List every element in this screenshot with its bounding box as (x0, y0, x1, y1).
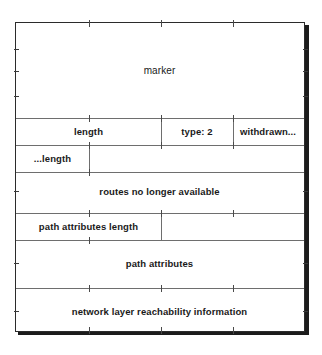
tick-bottom-2 (161, 327, 162, 334)
field-label-path-attributes-length: path attributes length (16, 221, 161, 232)
cell-divider-withdrawnlength-right (89, 145, 90, 172)
row-divider-marker-length (16, 118, 304, 119)
field-label-marker: marker (16, 65, 303, 76)
tick-row6-3 (233, 285, 234, 292)
tick-bottom-3 (233, 327, 234, 334)
bgp-update-packet-diagram: marker length type: 2 withdrawn... ...le… (15, 22, 305, 332)
field-label-path-attributes: path attributes (16, 258, 303, 269)
tick-top-2 (161, 20, 162, 27)
tick-row5-1 (89, 237, 90, 244)
tick-row1-2 (161, 115, 162, 122)
row-divider-length-withdrawnlength (16, 145, 304, 146)
edge-tick-right-5 (303, 263, 308, 264)
tick-row1-3 (233, 115, 234, 122)
row-divider-withdrawnlength-routes (16, 172, 304, 173)
tick-row4-3 (233, 210, 234, 217)
field-label-type: type: 2 (161, 126, 233, 137)
tick-row2-1 (89, 142, 90, 149)
field-label-nlri: network layer reachability information (16, 306, 303, 317)
tick-bottom-1 (89, 327, 90, 334)
tick-row2-3 (233, 142, 234, 149)
tick-row3-1 (89, 169, 90, 176)
edge-tick-left-1 (14, 49, 19, 50)
field-label-routes-withdrawn: routes no longer available (16, 186, 303, 197)
edge-tick-right-4 (303, 191, 308, 192)
tick-row1-1 (89, 115, 90, 122)
tick-top-3 (233, 20, 234, 27)
edge-tick-left-3 (14, 96, 19, 97)
tick-row2-2 (161, 142, 162, 149)
edge-tick-right-1 (303, 49, 308, 50)
edge-tick-right-2 (303, 71, 308, 72)
edge-tick-right-6 (303, 311, 308, 312)
field-label-withdrawn-length: ...length (16, 153, 89, 164)
tick-row4-2 (161, 210, 162, 217)
field-label-length: length (16, 126, 161, 137)
cell-divider-pathattrlength-right (161, 213, 162, 240)
row-divider-pathattr-nlri (16, 288, 304, 289)
tick-row6-1 (89, 285, 90, 292)
row-divider-pathattrlength-pathattr (16, 240, 304, 241)
field-label-withdrawn: withdrawn... (233, 126, 303, 137)
tick-top-1 (89, 20, 90, 27)
tick-row4-1 (89, 210, 90, 217)
edge-tick-right-3 (303, 96, 308, 97)
row-divider-routes-pathattrlength (16, 213, 304, 214)
tick-row6-2 (161, 285, 162, 292)
